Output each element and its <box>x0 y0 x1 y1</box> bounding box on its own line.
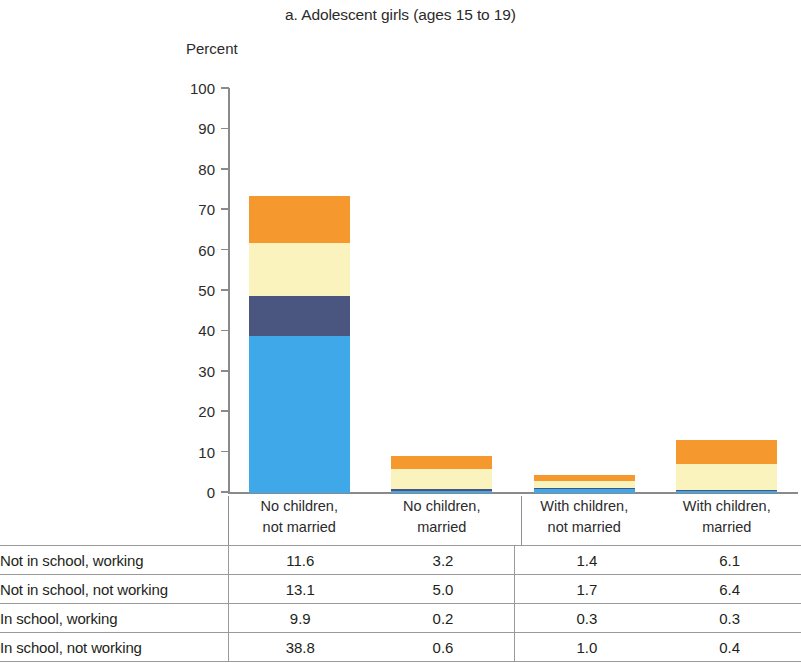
bar-segment <box>534 481 635 488</box>
y-tick-label-10: 10 <box>167 443 215 460</box>
axis-left-divider <box>228 496 229 545</box>
bar-segment <box>249 336 350 493</box>
y-tick-label-30: 30 <box>167 362 215 379</box>
table-cell-value: 6.1 <box>658 546 801 575</box>
y-tick-label-90: 90 <box>167 120 215 137</box>
data-table: Not in school, working11.63.21.46.1Not i… <box>0 545 801 662</box>
y-tick-label-0: 0 <box>167 484 215 501</box>
table-cell-value: 9.9 <box>228 604 371 633</box>
bar-segment <box>249 243 350 296</box>
bar-column <box>391 456 492 493</box>
table-row-label: In school, not working <box>0 633 228 662</box>
bar-segment <box>391 491 492 493</box>
category-label: With children,not married <box>513 496 655 538</box>
category-label: No children,married <box>371 496 513 538</box>
table-row: Not in school, not working13.15.01.76.4 <box>0 575 801 604</box>
bar-segment <box>676 440 777 465</box>
table-cell-value: 0.4 <box>658 633 801 662</box>
table-cell-value: 5.0 <box>372 575 515 604</box>
category-label-line: With children, <box>656 496 798 517</box>
bar-segment <box>249 196 350 243</box>
y-tick-label-60: 60 <box>167 241 215 258</box>
table-row: Not in school, working11.63.21.46.1 <box>0 546 801 575</box>
table-row-label: In school, working <box>0 604 228 633</box>
table-cell-value: 1.4 <box>515 546 658 575</box>
bar-segment <box>534 489 635 493</box>
y-tick-label-40: 40 <box>167 322 215 339</box>
table-cell-value: 0.6 <box>372 633 515 662</box>
y-tick-label-80: 80 <box>167 160 215 177</box>
table-cell-value: 0.3 <box>515 604 658 633</box>
y-tick-label-50: 50 <box>167 282 215 299</box>
plot-area: Percent 1009080706050403020100 No childr… <box>0 0 801 545</box>
bar-column <box>676 440 777 493</box>
bar-segment <box>391 456 492 469</box>
category-label-line: not married <box>513 517 655 538</box>
bar-segment <box>249 296 350 336</box>
table-row-label: Not in school, not working <box>0 575 228 604</box>
bar-group <box>228 88 798 493</box>
bar-segment <box>391 469 492 489</box>
table-cell-value: 0.2 <box>372 604 515 633</box>
category-label-line: married <box>371 517 513 538</box>
table-cell-value: 11.6 <box>228 546 371 575</box>
table-cell-value: 6.4 <box>658 575 801 604</box>
category-label: With children,married <box>656 496 798 538</box>
y-tick-label-20: 20 <box>167 403 215 420</box>
table-cell-value: 1.7 <box>515 575 658 604</box>
x-axis-category-labels: No children,not marriedNo children,marri… <box>228 496 798 542</box>
category-label: No children,not married <box>228 496 370 538</box>
bar-column <box>534 475 635 493</box>
category-label-line: No children, <box>228 496 370 517</box>
y-axis-title: Percent <box>186 40 238 57</box>
category-divider <box>521 496 522 545</box>
category-label-line: With children, <box>513 496 655 517</box>
bar-column <box>249 196 350 493</box>
table-row: In school, not working38.80.61.00.4 <box>0 633 801 662</box>
bar-segment <box>676 491 777 493</box>
table-cell-value: 13.1 <box>228 575 371 604</box>
table-row-label: Not in school, working <box>0 546 228 575</box>
category-label-line: not married <box>228 517 370 538</box>
table-cell-value: 1.0 <box>515 633 658 662</box>
y-tick-label-100: 100 <box>167 80 215 97</box>
table-row: In school, working9.90.20.30.3 <box>0 604 801 633</box>
category-label-line: married <box>656 517 798 538</box>
category-label-line: No children, <box>371 496 513 517</box>
bar-segment <box>676 464 777 490</box>
table-cell-value: 38.8 <box>228 633 371 662</box>
table-cell-value: 3.2 <box>372 546 515 575</box>
table-cell-value: 0.3 <box>658 604 801 633</box>
y-tick-label-70: 70 <box>167 201 215 218</box>
